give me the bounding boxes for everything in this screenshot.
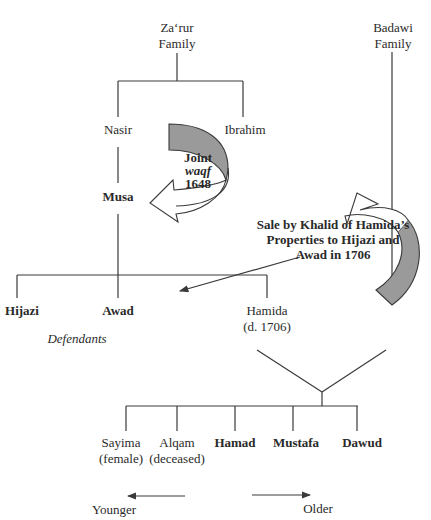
svg-text:Za‘rur: Za‘rur [160, 20, 194, 35]
awad-label: Awad [102, 303, 134, 318]
hijazi-label: Hijazi [5, 303, 39, 318]
ibrahim-label: Ibrahim [224, 122, 265, 137]
child-hamad-name: Hamad [214, 435, 256, 450]
svg-text:1648: 1648 [185, 176, 212, 191]
svg-text:Properties to Hijazi and: Properties to Hijazi and [267, 232, 401, 247]
child-sayima-note: (female) [99, 451, 143, 466]
sale-pointer-arrow [180, 257, 300, 291]
svg-text:Sale by Khalid of Hamida’s: Sale by Khalid of Hamida’s [257, 217, 410, 232]
badawi-family-label: Badawi Family [373, 20, 413, 51]
sale-note-label: Sale by Khalid of Hamida’s Properties to… [257, 217, 410, 262]
svg-text:Awad in 1706: Awad in 1706 [296, 247, 371, 262]
child-alqam-note: (deceased) [149, 451, 205, 466]
child-dawud-name: Dawud [342, 435, 383, 450]
child-mustafa-name: Mustafa [273, 435, 320, 450]
older-label: Older [303, 501, 333, 516]
hamida-death-note: (d. 1706) [243, 319, 291, 334]
hamida-label: Hamida [246, 303, 287, 318]
younger-label: Younger [92, 502, 137, 517]
svg-text:Family: Family [375, 36, 412, 51]
child-alqam-name: Alqam [159, 435, 194, 450]
v-connector-left [257, 350, 322, 392]
musa-label: Musa [102, 189, 134, 204]
defendants-label: Defendants [46, 331, 106, 346]
svg-text:Badawi: Badawi [373, 20, 413, 35]
zarur-family-label: Za‘rur Family [159, 20, 196, 51]
joint-waqf-label: Joint waqf 1648 [184, 150, 213, 191]
kinship-diagram: Za‘rur Family Badawi Family Nasir Ibrahi… [0, 0, 431, 520]
nasir-label: Nasir [104, 122, 133, 137]
v-connector-right [322, 350, 386, 392]
svg-text:Family: Family [159, 36, 196, 51]
child-sayima-name: Sayima [102, 435, 141, 450]
